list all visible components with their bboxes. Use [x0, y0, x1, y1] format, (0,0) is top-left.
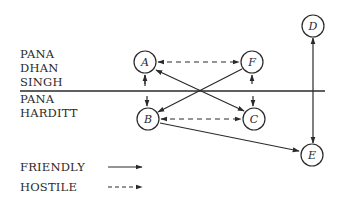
node-c-label: C [250, 113, 259, 126]
edge-b-e-friendly [160, 123, 299, 151]
upper-label-line-3: SINGH [20, 75, 63, 89]
node-a: A [134, 51, 156, 73]
upper-label-line-2: DHAN [20, 61, 58, 75]
node-b-label: B [143, 113, 152, 126]
node-f-label: F [247, 56, 256, 69]
group-label-upper: PANA DHAN SINGH [20, 47, 63, 89]
legend: FRIENDLY HOSTILE [20, 160, 142, 194]
legend-hostile-label: HOSTILE [20, 180, 77, 194]
node-f: F [241, 51, 263, 73]
lower-label-line-1: PANA [20, 92, 55, 106]
group-label-lower: PANA HARDITT [20, 92, 78, 120]
relationship-diagram: PANA DHAN SINGH PANA HARDITT A F B C D E [0, 0, 344, 210]
node-e-label: E [307, 149, 316, 162]
node-d: D [302, 15, 324, 37]
upper-label-line-1: PANA [20, 47, 55, 61]
node-b: B [137, 108, 159, 130]
node-d-label: D [308, 20, 318, 33]
node-e: E [301, 144, 323, 166]
node-a-label: A [140, 56, 149, 69]
lower-label-line-2: HARDITT [20, 106, 78, 120]
node-c: C [243, 108, 265, 130]
legend-friendly-label: FRIENDLY [20, 160, 85, 174]
